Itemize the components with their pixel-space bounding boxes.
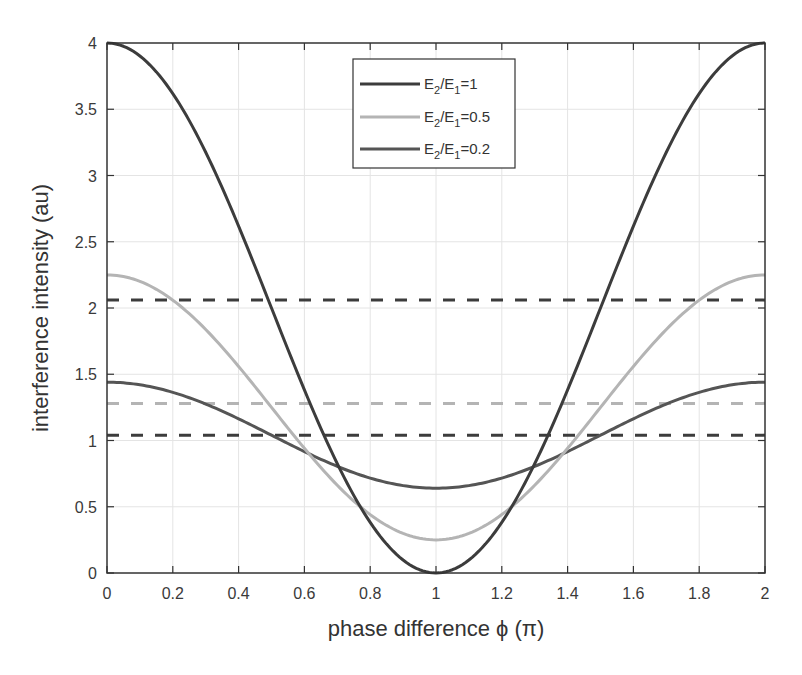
x-tick-label: 0.4 <box>227 585 249 602</box>
y-tick-label: 1 <box>88 433 97 450</box>
interference-chart: 00.20.40.60.811.21.41.61.82 00.511.522.5… <box>0 0 802 675</box>
y-tick-label: 2 <box>88 300 97 317</box>
y-tick-label: 4 <box>88 35 97 52</box>
x-tick-label: 0.6 <box>293 585 315 602</box>
x-axis-label: phase difference ϕ (π) <box>328 616 545 641</box>
x-tick-label: 0 <box>103 585 112 602</box>
x-tick-label: 1.8 <box>688 585 710 602</box>
x-tick-label: 1.6 <box>622 585 644 602</box>
y-tick-label: 3.5 <box>75 101 97 118</box>
y-tick-label: 2.5 <box>75 234 97 251</box>
x-tick-label: 0.8 <box>359 585 381 602</box>
legend: E2/E1=1E2/E1=0.5E2/E1=0.2 <box>353 59 515 168</box>
y-tick-label: 1.5 <box>75 366 97 383</box>
y-axis-label: interference intensity (au) <box>28 184 53 432</box>
x-tick-labels: 00.20.40.60.811.21.41.61.82 <box>103 585 770 602</box>
y-tick-labels: 00.511.522.533.54 <box>75 35 97 582</box>
y-tick-label: 0.5 <box>75 499 97 516</box>
x-tick-label: 0.2 <box>162 585 184 602</box>
x-tick-label: 2 <box>761 585 770 602</box>
y-tick-label: 3 <box>88 168 97 185</box>
x-tick-label: 1.2 <box>491 585 513 602</box>
y-tick-label: 0 <box>88 565 97 582</box>
x-tick-label: 1 <box>432 585 441 602</box>
x-tick-label: 1.4 <box>556 585 578 602</box>
